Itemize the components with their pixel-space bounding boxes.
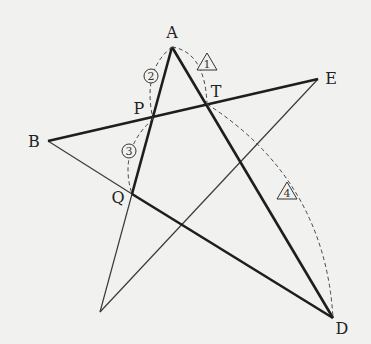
svg-text:2: 2 — [148, 70, 155, 83]
label-e: E — [325, 69, 337, 88]
svg-text:1: 1 — [204, 58, 211, 71]
segment-q-d-bold — [132, 194, 333, 318]
geometry-diagram: 1 2 3 4 A B D E P Q T — [0, 0, 371, 344]
label-t: T — [211, 82, 222, 101]
segment-a-d-bold — [172, 47, 333, 318]
svg-text:3: 3 — [126, 145, 133, 158]
segment-b-e-bold — [48, 79, 318, 141]
label-p: P — [134, 99, 145, 118]
segment-b-q-thin — [48, 141, 132, 194]
marker-circle-2: 2 — [144, 69, 158, 83]
label-q: Q — [111, 188, 124, 207]
label-a: A — [165, 23, 178, 42]
marker-triangle-4: 4 — [277, 182, 297, 200]
label-d: D — [336, 319, 349, 338]
marker-triangle-1: 1 — [197, 53, 217, 71]
marker-circle-3: 3 — [122, 144, 136, 158]
svg-text:4: 4 — [284, 187, 291, 200]
label-b: B — [28, 132, 40, 151]
